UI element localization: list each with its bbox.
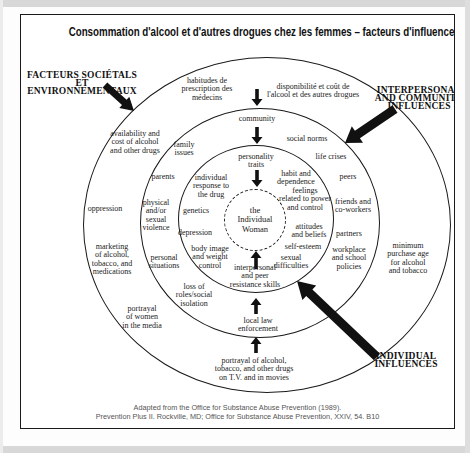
node-depression: depression	[178, 229, 212, 237]
node-physical-sexual-violence: physical and/or sexual violence	[142, 199, 169, 233]
node-life-crises: life crises	[316, 153, 347, 161]
node-habit-dependence: habit and dependence	[277, 170, 315, 187]
node-individual-response-drug: individual response to the drug	[193, 174, 229, 199]
node-community: community	[239, 115, 275, 123]
scan-edge-top	[0, 0, 470, 7]
node-portrayal-women-media: portrayal of women in the media	[122, 305, 162, 330]
node-oppression: oppression	[88, 205, 123, 213]
scan-edge-bottom	[0, 446, 470, 453]
societal-factors-label: FACTEURS SOCIÉTALS ET ENVIRONNEMENTAUX	[23, 71, 141, 95]
scan-edge-right	[465, 0, 470, 453]
node-personal-situations: personal situations	[149, 254, 180, 271]
node-friends-coworkers: friends and co-workers	[335, 198, 371, 215]
node-disponibilite-cout: disponibilité et coût de l'alcool et des…	[267, 83, 359, 100]
node-loss-roles-isolation: loss of roles/social isolation	[176, 283, 212, 308]
node-local-law-enforcement: local law enforcement	[238, 317, 278, 334]
node-feelings-power-control: feelings related to power and control	[279, 187, 331, 212]
node-workplace-school-policies: workplace and school policies	[332, 246, 366, 271]
figure-frame: Consommation d'alcool et d'autres drogue…	[20, 14, 455, 429]
page: Consommation d'alcool et d'autres drogue…	[0, 0, 470, 453]
node-partners: partners	[336, 230, 362, 238]
node-family-issues: family issues	[174, 141, 195, 158]
source-caption: Adapted from the Office for Substance Ab…	[27, 403, 447, 421]
node-marketing: marketing of alcohol, tobacco, and medic…	[92, 243, 132, 277]
node-minimum-purchase-age: minimum purchase age for alcohol and tob…	[387, 242, 429, 276]
individual-influences-label: INDIVIDUAL INFLUENCES	[363, 352, 449, 368]
center-individual-woman-label: the Individual Woman	[238, 206, 273, 234]
node-parents: parents	[151, 173, 174, 181]
node-interpersonal-peer-skills: interpersonal and peer resistance skills	[230, 264, 280, 289]
node-availability-cost: availability and cost of alcohol and oth…	[110, 130, 160, 155]
node-personality-traits: personality traits	[238, 153, 274, 170]
figure-title: Consommation d'alcool et d'autres drogue…	[69, 25, 407, 39]
scan-edge-left	[0, 0, 3, 453]
node-self-esteem: self-esteem	[285, 243, 321, 251]
node-body-image-weight: body image and weight control	[191, 245, 229, 270]
node-portrayal-alcohol-tv: portrayal of alcohol, tobacco, and other…	[215, 357, 294, 382]
node-peers: peers	[340, 173, 357, 181]
node-habitudes-prescription: habitudes de prescription des médecins	[182, 77, 233, 102]
node-genetics: genetics	[183, 207, 209, 215]
node-attitudes-beliefs: attitudes and beliefs	[292, 223, 327, 240]
node-social-norms: social norms	[287, 135, 328, 143]
interpersonal-community-label: INTERPERSONAL AND COMMUNITY INFLUENCES	[359, 86, 455, 110]
